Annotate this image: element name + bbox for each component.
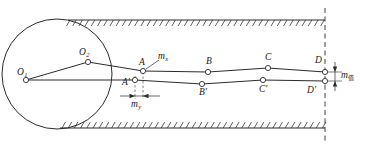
wall-top-hatching bbox=[67, 20, 325, 26]
arrowhead-left bbox=[130, 94, 136, 98]
wall-bottom bbox=[60, 122, 326, 128]
label-A-prime: A′ bbox=[122, 78, 130, 88]
arrowhead-right bbox=[143, 94, 149, 98]
figure-canvas: O1 O2 A A′ B B′ C C′ D D′ mx my m值 bbox=[0, 0, 368, 149]
node-O2[interactable] bbox=[85, 59, 90, 64]
node-C-prime[interactable] bbox=[260, 77, 265, 82]
label-B: B bbox=[206, 57, 212, 67]
label-D-prime: D′ bbox=[307, 86, 316, 96]
arrowhead-up bbox=[333, 67, 337, 73]
wall-bottom-hatching bbox=[62, 122, 326, 128]
dimension-m-value bbox=[328, 62, 342, 91]
arrowhead-down bbox=[333, 81, 337, 87]
label-B-prime: B′ bbox=[199, 88, 207, 98]
node-A-prime[interactable] bbox=[132, 77, 137, 82]
node-D[interactable] bbox=[322, 69, 327, 74]
label-mx: mx bbox=[158, 52, 168, 62]
label-O1: O1 bbox=[17, 68, 27, 78]
node-B-prime[interactable] bbox=[199, 81, 204, 86]
node-D-prime[interactable] bbox=[322, 78, 327, 83]
node-A[interactable] bbox=[140, 68, 145, 73]
label-A: A bbox=[139, 58, 145, 68]
mechanism-diagram bbox=[0, 0, 368, 149]
wall-top bbox=[67, 20, 326, 26]
upper-link-chain bbox=[26, 62, 325, 80]
node-C[interactable] bbox=[265, 65, 270, 70]
label-C-prime: C′ bbox=[259, 85, 267, 95]
node-B[interactable] bbox=[205, 69, 210, 74]
lower-link-chain bbox=[26, 80, 325, 84]
label-C: C bbox=[265, 53, 271, 63]
label-my: my bbox=[131, 100, 141, 110]
label-m-value: m值 bbox=[341, 71, 354, 81]
node-O1[interactable] bbox=[23, 77, 28, 82]
label-D: D bbox=[315, 56, 322, 66]
label-O2: O2 bbox=[79, 48, 89, 58]
